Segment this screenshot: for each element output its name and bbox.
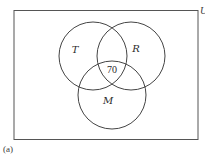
venn-diagram: U T R M 70 (a) <box>0 0 205 155</box>
set-r-label: R <box>131 43 140 54</box>
triple-intersection-value: 70 <box>107 64 117 75</box>
universe-label: U <box>200 5 205 16</box>
set-r-circle <box>97 22 165 90</box>
universe-rectangle <box>14 11 198 140</box>
set-t-circle <box>59 22 127 90</box>
set-t-label: T <box>72 44 80 55</box>
figure-caption: (a) <box>3 144 13 154</box>
set-m-label: M <box>102 95 114 106</box>
